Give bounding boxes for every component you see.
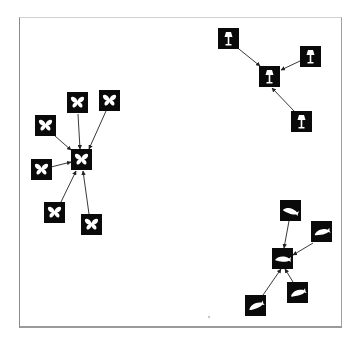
cluster-diagram: [0, 0, 359, 343]
edge-butterfly-2: [78, 114, 80, 149]
edge-butterfly-6: [83, 171, 89, 214]
fish-node[interactable]: [280, 200, 301, 221]
lamp-center-node[interactable]: [259, 66, 280, 87]
edge-lamp-2: [281, 61, 300, 70]
edge-fish-1: [284, 221, 289, 248]
fish-node[interactable]: [287, 282, 308, 303]
fish-node[interactable]: [311, 221, 332, 242]
edge-butterfly-5: [61, 171, 76, 202]
lamp-node[interactable]: [291, 111, 312, 132]
edge-fish-2: [293, 243, 313, 255]
butterfly-node[interactable]: [44, 202, 65, 223]
edge-butterfly-1: [55, 136, 71, 150]
fish-node[interactable]: [245, 295, 266, 316]
edge-butterfly-3: [89, 111, 106, 149]
lamp-node[interactable]: [218, 28, 239, 49]
butterfly-center-node[interactable]: [71, 149, 92, 170]
butterfly-node[interactable]: [31, 159, 52, 180]
lamp-node[interactable]: [300, 46, 321, 67]
butterfly-node[interactable]: [67, 92, 88, 113]
edge-fish-4: [285, 269, 293, 282]
butterfly-node[interactable]: [99, 90, 120, 111]
butterfly-node[interactable]: [81, 214, 102, 235]
fish-center-node[interactable]: [272, 248, 293, 269]
edge-butterfly-4: [51, 162, 71, 167]
edge-lamp-3: [272, 88, 294, 111]
edge-fish-3: [263, 269, 281, 295]
butterfly-node[interactable]: [35, 115, 56, 136]
stray-dot: [208, 316, 210, 318]
